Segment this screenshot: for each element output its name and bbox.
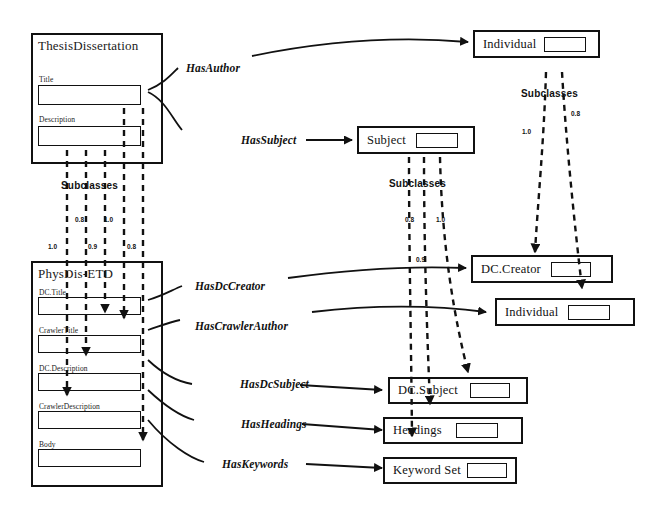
weight-left-upper-a: 0.8 <box>75 216 84 223</box>
edge-has-dc-subject-right <box>300 385 382 390</box>
subclasses-label-middle: Subclasses <box>389 178 446 189</box>
weight-right-a: 1.0 <box>522 128 531 135</box>
edge-has-author-right <box>252 39 468 56</box>
weight-left-upper-b: 1.0 <box>104 216 113 223</box>
field-box-dc-title[interactable] <box>38 297 141 315</box>
entity-label-keyword-set: Keyword Set <box>393 463 461 478</box>
entity-label-subject: Subject <box>367 133 406 148</box>
entity-individual-top[interactable]: Individual <box>473 30 600 58</box>
subclass-edge-subject-3 <box>440 157 468 372</box>
entity-label-dc-subject: DC.Subject <box>398 383 458 398</box>
field-label-description: Description <box>39 115 75 124</box>
entity-subject[interactable]: Subject <box>357 126 475 154</box>
field-box-body[interactable] <box>38 449 141 467</box>
entity-keyword-set[interactable]: Keyword Set <box>383 457 517 484</box>
entity-dc-creator[interactable]: DC.Creator <box>471 255 613 283</box>
entity-headings[interactable]: Headings <box>383 417 523 444</box>
field-label-dc-description: DC.Description <box>39 364 88 373</box>
entity-label-individual-top: Individual <box>483 37 536 52</box>
edge-has-dc-creator-right <box>288 267 466 278</box>
weight-mid-a: 0.8 <box>405 216 414 223</box>
field-box-description[interactable] <box>38 126 141 146</box>
class-title-thesis-dissertation: ThesisDissertation <box>38 38 138 54</box>
weight-left-lower-c: 0.8 <box>127 243 136 250</box>
edge-has-headings-right <box>302 424 382 430</box>
diagram-canvas: ThesisDissertation Title Description Phy… <box>0 0 656 522</box>
entity-slot-individual-bottom[interactable] <box>568 305 610 320</box>
entity-label-headings: Headings <box>393 423 442 438</box>
field-label-dc-title: DC.Title <box>39 288 66 297</box>
weight-right-b: 0.8 <box>571 110 580 117</box>
relation-label-has-headings: HasHeadings <box>241 418 307 430</box>
subclass-edge-subject-2 <box>424 157 430 404</box>
weight-mid-c: 0.9 <box>416 256 425 263</box>
field-label-title: Title <box>39 75 53 84</box>
entity-slot-dc-subject[interactable] <box>470 383 510 398</box>
relation-label-has-keywords: HasKeywords <box>222 458 288 470</box>
weight-left-lower-a: 1.0 <box>48 243 57 250</box>
field-box-dc-description[interactable] <box>38 373 141 391</box>
relation-label-has-dc-subject: HasDcSubject <box>240 378 309 390</box>
relation-label-has-dc-creator: HasDcCreator <box>195 280 265 292</box>
entity-slot-dc-creator[interactable] <box>551 262 591 277</box>
field-box-crawler-title[interactable] <box>38 335 141 353</box>
field-label-crawler-title: CrawlerTitle <box>39 326 78 335</box>
relation-label-has-subject: HasSubject <box>241 134 296 146</box>
entity-label-dc-creator: DC.Creator <box>481 262 541 277</box>
field-box-crawler-description[interactable] <box>38 411 141 429</box>
entity-slot-individual-top[interactable] <box>544 37 586 52</box>
relation-label-has-crawler-author: HasCrawlerAuthor <box>195 320 288 332</box>
entity-label-individual-bottom: Individual <box>505 305 558 320</box>
subclass-edge-individual-1 <box>535 72 546 252</box>
field-label-crawler-description: CrawlerDescription <box>39 402 100 411</box>
edge-has-keywords-right <box>306 464 382 468</box>
relation-label-has-author: HasAuthor <box>186 62 240 74</box>
edge-has-crawler-author-right <box>312 307 486 312</box>
entity-slot-keyword-set[interactable] <box>467 463 507 478</box>
entity-slot-subject[interactable] <box>416 133 458 148</box>
weight-left-lower-b: 0.9 <box>88 243 97 250</box>
subclasses-label-right: Subclasses <box>521 88 578 99</box>
entity-dc-subject[interactable]: DC.Subject <box>388 377 528 404</box>
field-label-body: Body <box>39 440 56 449</box>
class-title-physdis-etd: PhysDis-ETD <box>38 266 113 282</box>
entity-slot-headings[interactable] <box>456 423 498 438</box>
weight-mid-b: 1.0 <box>436 216 445 223</box>
entity-individual-bottom[interactable]: Individual <box>495 298 635 326</box>
field-box-title[interactable] <box>38 85 141 105</box>
subclasses-label-left: Subclasses <box>61 180 118 191</box>
